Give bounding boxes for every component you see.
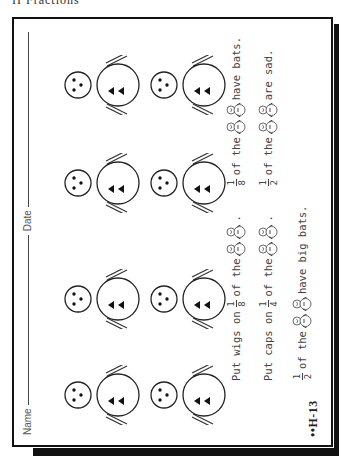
small-snowman-icon (226, 242, 246, 256)
denominator: 2 (270, 180, 278, 185)
snowman-icon[interactable] (148, 269, 234, 329)
small-snowman-icon (258, 120, 278, 134)
sentence-text: have big bats. (296, 206, 308, 295)
small-snowman-icon (258, 242, 278, 256)
sentence-text: Put caps on (262, 311, 274, 381)
snowman-icon[interactable] (62, 153, 148, 213)
date-field[interactable] (27, 32, 29, 207)
name-field[interactable] (27, 235, 29, 405)
small-snowman-icon (226, 120, 246, 134)
small-snowman-icon (258, 225, 278, 239)
numerator: 1 (227, 301, 235, 306)
fraction: 18 (227, 300, 246, 307)
small-snowman-icon (258, 103, 278, 117)
name-date-line: Name Date (22, 32, 33, 435)
sentence-text: of the (262, 137, 274, 175)
small-snowman-icon (226, 225, 246, 239)
frame-shadow-bottom (33, 448, 339, 456)
snowman-icon[interactable] (148, 55, 234, 115)
numerator: 1 (227, 180, 235, 185)
numerator: 1 (259, 301, 267, 306)
page-code: ••H-13 (306, 400, 321, 437)
sentence-text: . (262, 215, 274, 221)
small-snowman-icon (226, 103, 246, 117)
sentence-line: Put caps on14of the .12of the are sad. (258, 50, 278, 381)
numerator: 1 (293, 374, 301, 379)
page-header: II Fractions (12, 0, 80, 8)
date-label: Date (22, 207, 33, 235)
small-snowman-icon (292, 297, 312, 311)
snowman-icon[interactable] (62, 365, 148, 425)
snowman-icon[interactable] (62, 269, 148, 329)
worksheet-frame: Name Date (12, 17, 333, 447)
snowman-icon[interactable] (62, 55, 148, 115)
sentence-text: of the (230, 259, 242, 297)
worksheet-content: Name Date (14, 19, 331, 445)
snowman-icon[interactable] (148, 365, 234, 425)
frame-shadow-right (334, 24, 339, 454)
snowman-icon[interactable] (148, 153, 234, 213)
name-label: Name (22, 405, 33, 435)
denominator: 8 (238, 301, 246, 306)
fraction: 18 (227, 179, 246, 186)
denominator: 4 (270, 301, 278, 306)
sentence-text: Put wigs on (230, 311, 242, 381)
fraction: 12 (259, 179, 278, 186)
sentence-text: are sad. (262, 50, 274, 101)
denominator: 8 (238, 180, 246, 185)
sentence-line: Put wigs on18of the .18of the have bats. (226, 37, 246, 381)
sentence-text: have bats. (230, 37, 242, 100)
sentence-text: of the (230, 137, 242, 175)
sentence-text: of the (262, 259, 274, 297)
sentence-line: 12of the have big bats. (292, 206, 312, 381)
sentence-text: of the (296, 331, 308, 369)
sentence-text: . (230, 215, 242, 221)
fraction: 12 (293, 373, 312, 380)
denominator: 2 (304, 374, 312, 379)
numerator: 1 (259, 180, 267, 185)
fraction: 14 (259, 300, 278, 307)
small-snowman-icon (292, 314, 312, 328)
